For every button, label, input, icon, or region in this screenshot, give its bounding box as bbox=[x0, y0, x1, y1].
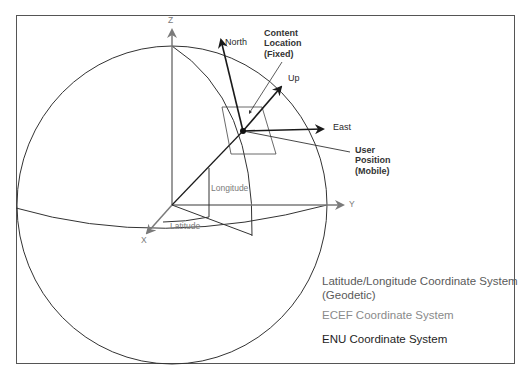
user-position-pointer bbox=[243, 131, 350, 152]
y-axis-label: Y bbox=[349, 200, 355, 210]
legend-item-geodetic: Latitude/Longitude Coordinate System (Ge… bbox=[322, 274, 518, 302]
content-location-line-1: Content bbox=[264, 28, 302, 38]
legend-item-enu: ENU Coordinate System bbox=[322, 332, 518, 346]
user-position-label: User Position (Mobile) bbox=[355, 145, 391, 176]
user-position-line-3: (Mobile) bbox=[355, 166, 391, 176]
latitude-label: Latitude bbox=[170, 222, 200, 232]
legend: Latitude/Longitude Coordinate System (Ge… bbox=[322, 274, 518, 346]
legend-geodetic-label: Latitude/Longitude Coordinate System bbox=[322, 274, 518, 288]
east-label: East bbox=[333, 122, 351, 132]
content-location-label: Content Location (Fixed) bbox=[264, 28, 302, 59]
user-position-line-1: User bbox=[355, 145, 391, 155]
up-label: Up bbox=[288, 73, 300, 83]
content-location-line-3: (Fixed) bbox=[264, 49, 302, 59]
z-axis-label: Z bbox=[168, 16, 173, 26]
radius-line bbox=[172, 131, 243, 205]
legend-geodetic-sublabel: (Geodetic) bbox=[322, 288, 518, 302]
meridian-arc bbox=[172, 46, 252, 236]
legend-item-ecef: ECEF Coordinate System bbox=[322, 308, 518, 322]
longitude-label: Longitude bbox=[211, 184, 248, 194]
x-axis bbox=[147, 205, 172, 233]
x-axis-label: X bbox=[141, 236, 147, 246]
user-position-dot bbox=[240, 128, 246, 134]
north-label: North bbox=[225, 37, 247, 47]
content-location-line-2: Location bbox=[264, 38, 302, 48]
user-position-line-2: Position bbox=[355, 155, 391, 165]
east-vector bbox=[243, 129, 323, 131]
